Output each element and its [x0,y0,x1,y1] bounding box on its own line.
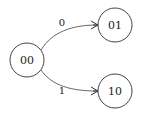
edge-path-00-10 [41,70,97,91]
edge-label-1: 1 [59,85,65,96]
node-01: 01 [98,8,132,42]
node-label-01: 01 [108,19,122,32]
edge-label-0: 0 [59,17,65,28]
edge-00-to-01: 0 [41,17,98,51]
node-00: 00 [10,43,44,77]
node-10: 10 [98,74,132,108]
state-diagram: 0 1 00 01 10 [0,0,142,114]
node-label-00: 00 [20,54,34,67]
edge-path-00-01 [41,25,97,50]
node-label-10: 10 [108,85,122,98]
edge-00-to-10: 1 [41,70,98,96]
